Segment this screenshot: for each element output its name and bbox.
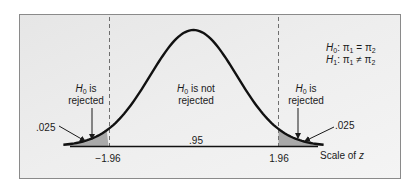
right-area-label: .025 [335, 120, 355, 131]
left-area-label: .025 [36, 122, 56, 133]
center-area-label: .95 [189, 135, 203, 146]
left-region-label-line2: rejected [68, 95, 104, 106]
hypothesis-test-diagram: H0 is rejected H0 is not rejected H0 is … [0, 0, 413, 188]
right-region-label: H0 is [295, 83, 316, 95]
center-region-label: H0 is not [177, 83, 215, 95]
right-critical-value: 1.96 [269, 153, 289, 164]
center-region-label-line2: rejected [178, 95, 214, 106]
axis-label: Scale of z [320, 150, 364, 161]
left-region-label: H0 is [75, 83, 96, 95]
right-region-label-line2: rejected [288, 95, 324, 106]
left-critical-value: −1.96 [95, 153, 121, 164]
